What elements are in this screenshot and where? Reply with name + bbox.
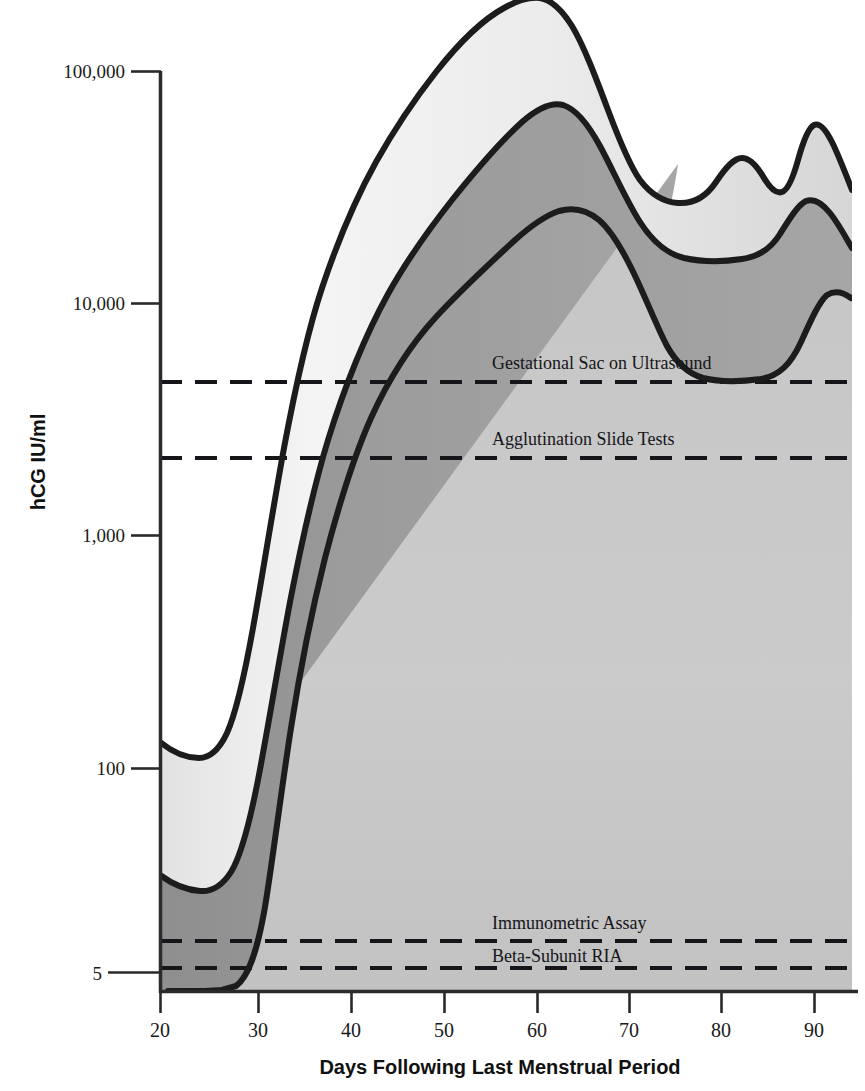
x-tick-label-90: 90 <box>804 1019 824 1041</box>
x-tick-label-30: 30 <box>248 1019 268 1041</box>
x-tick-label-70: 70 <box>619 1019 639 1041</box>
x-tick-label-40: 40 <box>341 1019 361 1041</box>
threshold-label-gestational-sac: Gestational Sac on Ultrasound <box>492 353 711 373</box>
chart-figure: 100,000 10,000 1,000 100 5 20 30 40 50 6… <box>0 0 865 1091</box>
y-tick-label-10000: 10,000 <box>73 293 125 314</box>
y-tick-label-100000: 100,000 <box>63 61 125 82</box>
y-axis-title: hCG IU/ml <box>27 414 49 511</box>
threshold-label-beta-subunit: Beta-Subunit RIA <box>492 946 623 966</box>
y-tick-label-1000: 1,000 <box>82 525 125 546</box>
x-axis-ticks <box>161 991 815 1013</box>
x-tick-label-50: 50 <box>434 1019 454 1041</box>
y-tick-label-100: 100 <box>97 758 126 779</box>
x-tick-label-80: 80 <box>711 1019 731 1041</box>
distribution-bands <box>160 0 852 991</box>
threshold-label-immunometric: Immunometric Assay <box>492 913 646 933</box>
threshold-label-agglutination: Agglutination Slide Tests <box>492 429 674 449</box>
y-axis-ticks <box>108 72 161 973</box>
y-tick-label-5: 5 <box>93 963 103 984</box>
x-axis-title: Days Following Last Menstrual Period <box>319 1056 680 1078</box>
x-tick-label-20: 20 <box>150 1019 170 1041</box>
x-tick-label-60: 60 <box>527 1019 547 1041</box>
hcg-pregnancy-chart: 100,000 10,000 1,000 100 5 20 30 40 50 6… <box>0 0 865 1091</box>
